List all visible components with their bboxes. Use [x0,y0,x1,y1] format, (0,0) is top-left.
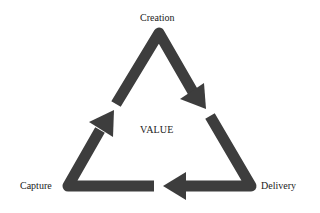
arrowhead-to-capture-icon [163,172,186,200]
edge-creation-to-delivery [116,33,193,104]
edge-capture-to-creation [68,130,154,186]
edge-delivery-to-capture [185,116,251,186]
node-label-capture: Capture [20,180,52,192]
node-label-creation: Creation [140,12,174,24]
center-label-value: VALUE [140,124,174,136]
node-label-delivery: Delivery [261,180,296,192]
